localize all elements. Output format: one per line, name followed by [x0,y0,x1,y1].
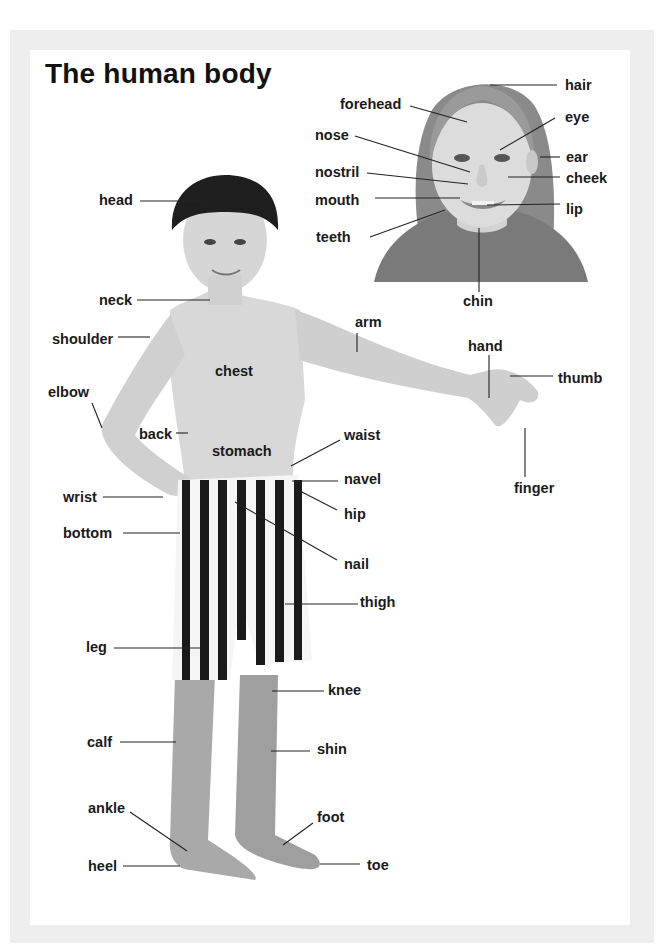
boy-standing-photo [90,170,550,900]
label-stomach: stomach [212,443,272,459]
label-nose: nose [315,127,349,143]
label-forehead: forehead [340,96,401,112]
label-hand: hand [468,338,503,354]
label-cheek: cheek [566,170,607,186]
label-elbow: elbow [48,384,89,400]
label-nail: nail [344,556,369,572]
label-chest: chest [215,363,253,379]
label-head: head [99,192,133,208]
label-shoulder: shoulder [52,331,113,347]
label-calf: calf [87,734,112,750]
label-chin: chin [463,293,493,309]
label-knee: knee [328,682,361,698]
label-thumb: thumb [558,370,602,386]
label-toe: toe [367,857,389,873]
label-heel: heel [88,858,117,874]
label-eye: eye [565,109,589,125]
label-ear: ear [566,149,588,165]
label-shin: shin [317,741,347,757]
label-wrist: wrist [63,489,97,505]
label-foot: foot [317,809,344,825]
label-ankle: ankle [88,800,125,816]
page-title: The human body [45,58,272,90]
label-navel: navel [344,471,381,487]
label-mouth: mouth [315,192,359,208]
label-arm: arm [355,314,382,330]
label-lip: lip [566,201,583,217]
label-finger: finger [514,480,554,496]
label-waist: waist [344,427,380,443]
label-hip: hip [344,506,366,522]
label-thigh: thigh [360,594,395,610]
label-neck: neck [99,292,132,308]
label-teeth: teeth [316,229,351,245]
label-leg: leg [86,639,107,655]
label-bottom: bottom [63,525,112,541]
label-nostril: nostril [315,164,359,180]
label-hair: hair [565,77,592,93]
label-back: back [139,426,172,442]
